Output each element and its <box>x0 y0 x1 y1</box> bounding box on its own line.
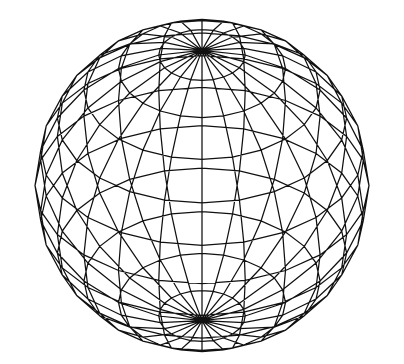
sphere-edges <box>35 19 369 351</box>
sphere-mesh-lines <box>35 19 369 351</box>
sphere-figure <box>0 0 404 364</box>
wireframe-sphere <box>0 0 404 364</box>
